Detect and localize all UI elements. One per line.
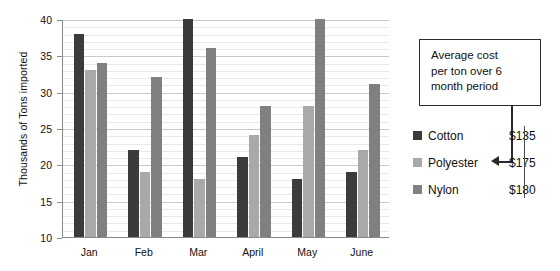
bar-nylon-may [315,19,326,237]
callout-line-1: Average cost [431,48,540,64]
y-tick-label: 15 [18,197,52,208]
bar-cotton-may [292,179,303,237]
x-tick-label-june: June [332,246,392,258]
y-tick-label: 20 [18,160,52,171]
y-tick-mark [57,238,62,239]
x-tick-label-jan: Jan [59,246,119,258]
bar-nylon-june [369,84,380,237]
bar-nylon-april [260,106,271,237]
y-tick-label: 25 [18,124,52,135]
y-tick-label: 10 [18,233,52,244]
legend-label: Nylon [428,183,509,197]
bar-polyester-may [303,106,314,237]
callout-line-3: month period [431,79,540,95]
legend-swatch-icon-nylon [413,185,422,194]
legend-price: $135 [509,129,543,143]
plot-area [62,20,389,238]
bar-nylon-feb [151,77,162,237]
bar-nylon-mar [206,48,217,237]
bar-nylon-jan [97,63,108,237]
bar-polyester-jan [85,70,96,237]
x-tick-label-may: May [277,246,337,258]
legend-vertical-rule [524,126,525,198]
callout-box: Average cost per ton over 6 month period [419,39,541,106]
legend-label: Cotton [428,129,509,143]
bar-cotton-mar [183,19,194,237]
bar-cotton-june [346,172,357,237]
bar-cotton-jan [74,34,85,237]
chart-figure: Thousands of Tons imported 1015202530354… [0,0,560,271]
x-tick-label-mar: Mar [168,246,228,258]
callout-line-2: per ton over 6 [431,64,540,80]
bar-cotton-feb [128,150,139,237]
bar-polyester-mar [194,179,205,237]
bars-layer [63,20,389,237]
legend-swatch-icon-cotton [413,131,422,140]
y-tick-label: 35 [18,51,52,62]
legend-swatch-icon-polyester [413,158,422,167]
bar-cotton-april [237,157,248,237]
y-tick-label: 40 [18,15,52,26]
x-tick-label-april: April [223,246,283,258]
bar-polyester-june [358,150,369,237]
legend-price: $180 [509,183,543,197]
bar-polyester-april [249,135,260,237]
bar-polyester-feb [140,172,151,237]
legend-label: Polyester [428,156,509,170]
y-tick-label: 30 [18,88,52,99]
y-axis-title: Thousands of Tons imported [17,14,29,224]
legend-price: $175 [509,156,543,170]
x-tick-label-feb: Feb [114,246,174,258]
